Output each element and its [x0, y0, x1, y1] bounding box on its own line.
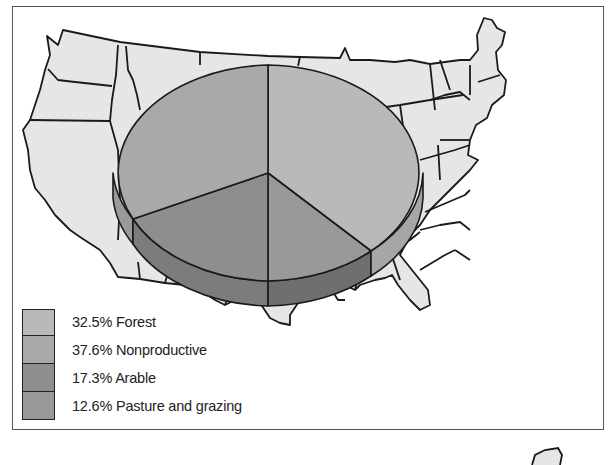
legend-swatch: [22, 309, 55, 336]
legend-swatch: [22, 364, 55, 392]
legend-item-nonproductive: 37.6% Nonproductive: [22, 336, 242, 364]
island-shape: [532, 448, 562, 465]
legend-item-pasture: 12.6% Pasture and grazing: [22, 392, 242, 420]
legend-label: 37.6% Nonproductive: [72, 342, 207, 358]
legend-label: 12.6% Pasture and grazing: [72, 398, 242, 414]
legend-swatch: [22, 336, 55, 364]
legend-item-forest: 32.5% Forest: [22, 308, 242, 336]
legend-swatch: [22, 392, 55, 420]
chart-legend: 32.5% Forest 37.6% Nonproductive 17.3% A…: [22, 308, 242, 420]
legend-item-arable: 17.3% Arable: [22, 364, 242, 392]
legend-label: 32.5% Forest: [72, 314, 156, 330]
legend-label: 17.3% Arable: [72, 370, 156, 386]
